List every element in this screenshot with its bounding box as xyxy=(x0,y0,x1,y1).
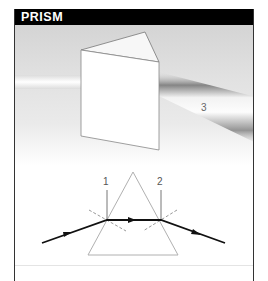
prism-illustration: 3 xyxy=(0,0,268,281)
normal-label-2: 2 xyxy=(157,176,163,187)
photo-layer xyxy=(15,32,260,150)
prism-triangle xyxy=(88,172,178,255)
normal-label-1: 1 xyxy=(103,176,109,187)
prism-front-face xyxy=(81,50,159,150)
white-light-beam xyxy=(15,75,83,89)
arrow-icon xyxy=(63,232,72,237)
spectrum-beam xyxy=(159,72,260,145)
light-ray-path xyxy=(42,220,225,243)
arrow-icon xyxy=(128,217,136,223)
arrow-icon xyxy=(191,229,201,235)
spectrum-label: 3 xyxy=(201,102,207,113)
